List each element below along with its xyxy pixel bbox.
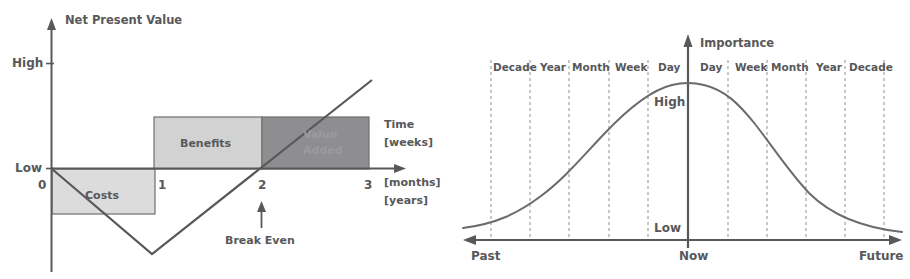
benefits-box-label: Benefits bbox=[180, 138, 231, 149]
period-label-past-day: Day bbox=[658, 62, 680, 73]
importance-y-axis-arrowhead bbox=[684, 34, 693, 47]
period-label-future-year: Year bbox=[816, 62, 842, 73]
importance-x-axis-arrowhead-left bbox=[463, 235, 476, 245]
npv-y-axis-title: Net Present Value bbox=[65, 15, 182, 27]
importance-x-label-now: Now bbox=[679, 250, 708, 262]
period-label-past-year: Year bbox=[540, 62, 566, 73]
importance-y-tick-low-label: Low bbox=[654, 222, 681, 234]
importance-chart-graphics bbox=[455, 0, 910, 279]
importance-x-axis-arrowhead-right bbox=[889, 235, 902, 245]
npv-x-tick-0: 0 bbox=[38, 179, 46, 191]
value-added-box-label-line2: Added bbox=[303, 145, 343, 156]
costs-box-label: Costs bbox=[85, 190, 119, 201]
period-label-past-week: Week bbox=[615, 62, 647, 73]
npv-x-tick-3: 3 bbox=[364, 179, 372, 191]
npv-x-axis-unit-months: [months] bbox=[384, 177, 441, 188]
break-even-annotation: Break Even bbox=[225, 235, 295, 246]
npv-y-tick-low-label: Low bbox=[15, 162, 42, 174]
importance-gridlines-future bbox=[728, 60, 884, 240]
figure-canvas: Net Present Value High Low 0 1 2 3 Costs… bbox=[0, 0, 910, 279]
npv-y-tick-high-label: High bbox=[12, 57, 43, 69]
npv-x-axis-unit-weeks: [weeks] bbox=[384, 137, 433, 148]
npv-x-axis-arrowhead bbox=[394, 164, 406, 173]
npv-x-tick-2: 2 bbox=[258, 179, 266, 191]
period-label-future-day: Day bbox=[700, 62, 722, 73]
break-even-pointer-arrowhead bbox=[257, 201, 266, 212]
npv-chart: Net Present Value High Low 0 1 2 3 Costs… bbox=[0, 0, 455, 279]
period-label-future-week: Week bbox=[735, 62, 767, 73]
importance-chart: Importance Decade Year Month Week Day Da… bbox=[455, 0, 910, 279]
period-label-past-month: Month bbox=[572, 62, 610, 73]
period-label-future-decade: Decade bbox=[849, 62, 893, 73]
npv-x-tick-1: 1 bbox=[158, 179, 166, 191]
period-label-past-decade: Decade bbox=[493, 62, 537, 73]
period-label-future-month: Month bbox=[771, 62, 809, 73]
npv-x-axis-title: Time bbox=[384, 119, 414, 130]
importance-x-label-future: Future bbox=[859, 250, 903, 262]
npv-x-axis-unit-years: [years] bbox=[384, 195, 428, 206]
importance-y-tick-high-label: High bbox=[654, 96, 685, 108]
importance-x-label-past: Past bbox=[471, 250, 500, 262]
value-added-box-label-line1: Value bbox=[303, 129, 337, 140]
npv-y-axis-arrowhead bbox=[47, 18, 56, 30]
importance-y-axis-title: Importance bbox=[700, 38, 774, 50]
